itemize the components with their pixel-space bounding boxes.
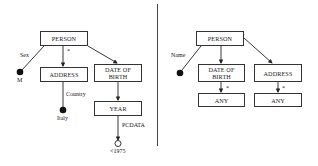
node-r-address: ADDRESS [254, 64, 302, 82]
node-label: DATE OF BIRTH [103, 66, 133, 80]
node-r-person: PERSON [196, 31, 244, 46]
leaf-label-1975: <1975 [110, 148, 125, 155]
edge-r-address [244, 38, 272, 63]
edge-date-of-birth [88, 46, 117, 63]
edge-label-name: Name [171, 52, 185, 59]
edge-label-star: * [67, 48, 70, 55]
node-r-any-1: ANY [198, 93, 245, 107]
node-label: YEAR [109, 105, 126, 112]
leaf-circle-1975 [115, 141, 121, 147]
leaf-label-m: M [17, 77, 22, 84]
edges-layer [0, 0, 318, 166]
node-r-any-2: ANY [254, 93, 302, 107]
node-label: PERSON [52, 35, 76, 42]
node-r-date-of-birth: DATE OF BIRTH [198, 64, 245, 82]
node-address: ADDRESS [40, 67, 88, 82]
node-year: YEAR [94, 101, 142, 116]
edge-label-pcdata: PCDATA [122, 122, 145, 129]
node-person: PERSON [40, 31, 88, 46]
node-label: ADDRESS [264, 70, 293, 77]
leaf-dot-italy [60, 107, 67, 114]
edge-label-star-1: * [226, 85, 229, 92]
node-label: PERSON [208, 35, 232, 42]
node-label: DATE OF BIRTH [207, 66, 236, 80]
node-label: ANY [215, 97, 229, 104]
vertical-divider [157, 4, 158, 146]
edge-label-country: Country [66, 91, 86, 98]
edge-label-star-2: * [282, 85, 285, 92]
leaf-label-italy: Italy [57, 115, 68, 122]
node-label: ANY [271, 97, 285, 104]
node-date-of-birth: DATE OF BIRTH [94, 64, 142, 82]
leaf-dot-name [177, 70, 184, 77]
leaf-dot-m [17, 69, 24, 76]
edge-label-sex: Sex [20, 52, 29, 59]
node-label: ADDRESS [50, 71, 79, 78]
